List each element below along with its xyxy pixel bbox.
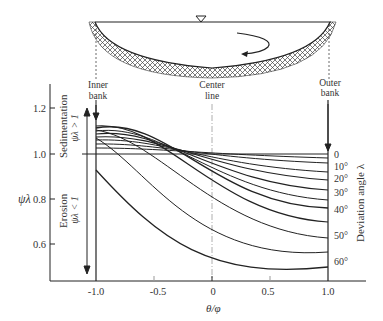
deviation-angle-label: Deviation angle λ <box>354 163 366 242</box>
svg-text:-0.5: -0.5 <box>150 286 167 297</box>
svg-text:bank: bank <box>321 88 340 98</box>
angle-labels: 0 10° 20° 30° 40° 50° 60° <box>334 149 348 267</box>
inner-bank-label: Inner <box>88 80 109 90</box>
chart-figure: Inner bank Center line Outer bank 1.2 1.… <box>0 0 383 321</box>
y-axis-label: ψλ <box>18 192 31 206</box>
erosion-label: Erosion <box>57 193 69 228</box>
svg-text:-1.0: -1.0 <box>88 286 105 297</box>
svg-text:40°: 40° <box>334 204 348 215</box>
svg-text:1.0: 1.0 <box>33 149 46 160</box>
svg-text:0.8: 0.8 <box>33 194 46 205</box>
svg-text:ψλ > 1: ψλ > 1 <box>69 114 80 141</box>
svg-text:30°: 30° <box>334 187 348 198</box>
svg-text:1.2: 1.2 <box>33 103 46 114</box>
svg-text:0.5: 0.5 <box>261 286 274 297</box>
x-tick-labels: -1.0 -0.5 0 0.5 1.0 <box>88 286 335 297</box>
svg-text:bank: bank <box>89 91 108 101</box>
channel-cross-section <box>89 16 336 80</box>
svg-text:0: 0 <box>334 149 339 160</box>
svg-text:1.0: 1.0 <box>321 286 334 297</box>
svg-text:ψλ < 1: ψλ < 1 <box>69 196 80 223</box>
svg-text:0.6: 0.6 <box>33 239 46 250</box>
water-level-icon <box>196 16 206 22</box>
y-tick-labels: 1.2 1.0 0.8 0.6 <box>33 103 46 250</box>
svg-text:line: line <box>205 91 219 101</box>
svg-text:10°: 10° <box>334 161 348 172</box>
x-axis-label: θ/φ <box>206 302 221 314</box>
svg-text:50°: 50° <box>334 230 348 241</box>
sedimentation-label: Sedimentation <box>57 94 69 158</box>
outer-bank-label: Outer <box>319 78 341 88</box>
direction-arrows <box>84 100 331 274</box>
svg-text:20°: 20° <box>334 173 348 184</box>
svg-text:60°: 60° <box>334 256 348 267</box>
center-line-label: Center <box>199 80 225 90</box>
svg-text:0: 0 <box>210 286 215 297</box>
